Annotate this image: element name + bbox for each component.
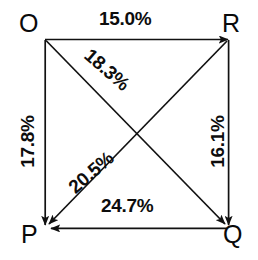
edge-label-o-to-r: 15.0% [99, 9, 151, 28]
node-label-o: O [19, 11, 38, 36]
node-label-r: R [222, 11, 240, 36]
edge-label-o-to-p: 17.8% [18, 102, 37, 182]
diagram-canvas: O R P Q 15.0% 17.8% 16.1% 24.7% 18.3% 20… [0, 0, 258, 260]
edge-label-r-to-q: 16.1% [208, 102, 227, 182]
edge-label-q-to-p: 24.7% [101, 196, 153, 215]
node-label-p: P [21, 222, 38, 247]
node-label-q: Q [223, 222, 242, 247]
